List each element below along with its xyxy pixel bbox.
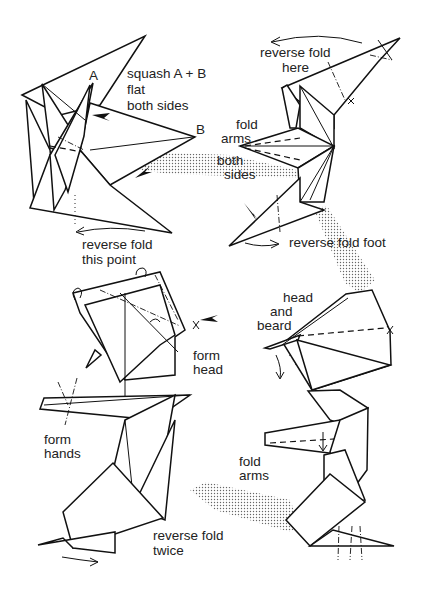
beard-down-arrow-icon xyxy=(276,355,281,378)
label-squash-line1: squash A + B xyxy=(127,66,206,81)
reverse-fold-curved-arrow-icon xyxy=(78,228,145,232)
step-4-figure: form head form hands reverse fold twice xyxy=(38,268,224,566)
label-reverse-fold-line2: this point xyxy=(82,252,136,267)
foot-arrow-head-icon xyxy=(244,203,258,220)
connector-3-to-4 xyxy=(190,482,300,532)
reverse-fold-here-arrow-icon xyxy=(272,36,362,43)
label-reverse-fold-here-line1: reverse fold xyxy=(260,45,331,60)
label-reverse-fold-twice-line2: twice xyxy=(153,543,184,558)
label-form-hands-line2: hands xyxy=(44,446,81,461)
label-reverse-fold-here-line2: here xyxy=(282,60,309,75)
label-form-head-line2: head xyxy=(193,362,223,377)
label-reverse-fold-line1: reverse fold xyxy=(82,237,153,252)
label-sides-line2: sides xyxy=(224,167,256,182)
reverse-fold-foot-arrow-icon xyxy=(245,243,278,246)
label-fold-arms-line2: arms xyxy=(221,131,251,146)
label-reverse-fold-twice-line1: reverse fold xyxy=(153,528,224,543)
label-head-line2: and xyxy=(270,304,293,319)
label-fold-arms-line1: fold xyxy=(239,454,261,469)
label-squash-line3: both sides xyxy=(127,98,189,113)
label-fold-arms-line2: arms xyxy=(239,468,269,483)
label-point-a: A xyxy=(89,68,98,83)
label-both-line1: both xyxy=(217,153,243,168)
form-head-arrow-icon xyxy=(200,315,218,322)
label-head-line1: head xyxy=(283,290,313,305)
origami-diagram: A B squash A + B flat both sides reverse… xyxy=(0,0,422,598)
label-form-head-line1: form xyxy=(193,348,220,363)
label-squash-line2: flat xyxy=(127,82,145,97)
label-head-line3: beard xyxy=(257,318,292,333)
label-form-hands-line1: form xyxy=(44,432,71,447)
step-2-figure: reverse fold here fold arms both sides r… xyxy=(217,36,400,250)
label-fold-arms-line1: fold xyxy=(236,117,258,132)
step-1-figure: A B squash A + B flat both sides reverse… xyxy=(22,36,206,267)
label-point-b: B xyxy=(196,122,205,137)
label-reverse-fold-foot: reverse fold foot xyxy=(289,235,386,250)
